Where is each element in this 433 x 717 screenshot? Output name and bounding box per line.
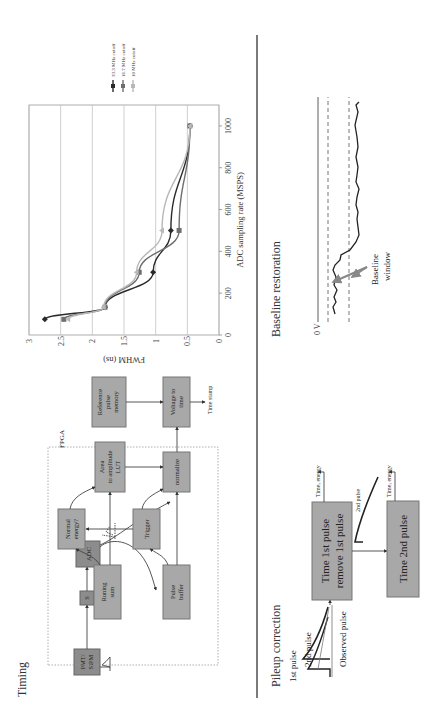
box1-label-2: remove 1st pulse: [333, 514, 345, 589]
baseline-window-label-1: Baseline: [370, 254, 380, 285]
fwhm-chart: FWHM (ns) ADC sampling rate (MSPS) 00.51…: [25, 43, 245, 365]
x-tick-label: 600: [224, 204, 233, 216]
normal-energy-label-1: Normal: [64, 519, 71, 539]
time-first-pulse-box: [312, 502, 352, 600]
data-point: [150, 269, 156, 275]
figure-page: Timing PMT/ SiPM S ADC FPGA Runing sum P…: [0, 0, 433, 717]
zero-volt-label: 0 V: [313, 323, 322, 335]
voltage-to-time-label-1: Voltage to: [169, 389, 176, 415]
chart-ticks: 00.511.522.5302004006008001000: [25, 118, 233, 346]
legend-entry: 10 MHz cutoff: [131, 47, 136, 77]
detector-pulse-icon: [100, 657, 110, 671]
sampled-pulse-icon: [102, 523, 115, 539]
chart-grid: [29, 105, 219, 335]
area-lut-label-2: to amplitude: [106, 451, 113, 484]
x-tick-label: 0: [224, 333, 233, 337]
y-tick-label: 0.5: [183, 336, 192, 346]
time-stamp-label: Time stamp: [207, 386, 213, 414]
box2-label: Time 2nd pulse: [397, 515, 409, 583]
output1-label: Time, energy: [315, 465, 321, 497]
pulse-buffer-label-2: buffer: [177, 583, 184, 600]
x-axis-label: ADC sampling rate (MSPS): [235, 172, 245, 268]
x-tick-label: 1000: [224, 118, 233, 134]
chart-series: [42, 123, 193, 322]
running-sum-label-1: Runing: [100, 582, 107, 602]
y-tick-label: 1.5: [120, 336, 129, 346]
area-lut-label-1: Area: [98, 461, 105, 474]
fpga-region: [48, 447, 218, 665]
legend-marker: [131, 84, 135, 88]
legend-entry: 16.7 MHz cutoff: [121, 43, 126, 77]
pileup-section: Pileup correction 1st pulse 2nd pulse Ob…: [269, 465, 419, 687]
detector-label-2: SiPM: [87, 654, 94, 669]
data-point: [177, 228, 182, 233]
y-tick-label: 0: [215, 339, 224, 343]
arrow-normal-energy-to-lut: [70, 487, 95, 509]
y-tick-label: 2: [88, 339, 97, 343]
pulse-buffer-label-1: Pulse: [169, 585, 176, 599]
detector-label-1: PMT/: [79, 654, 86, 669]
normal-energy-label-2: energy?: [72, 519, 79, 540]
baseline-title: Baseline restoration: [269, 241, 283, 337]
baseline-window-label-2: window: [382, 252, 392, 282]
y-tick-label: 3: [25, 339, 34, 343]
area-lut-label-3: LUT: [114, 461, 121, 474]
arrow-pulse-buffer-to-trigger: [150, 549, 168, 565]
reference-memory-label-1: Reference: [96, 389, 103, 415]
y-tick-label: 2.5: [57, 336, 66, 346]
arrow-trigger-to-normalize: [142, 489, 163, 509]
x-tick-label: 400: [224, 245, 233, 257]
trigger-label: Trigger: [143, 519, 150, 539]
legend-marker: [121, 84, 125, 88]
observed-pulse-label: Observed pulse: [338, 611, 348, 667]
fpga-label: FPGA: [58, 430, 66, 448]
normalize-label: normalize: [173, 459, 180, 485]
pileup-title: Pileup correction: [269, 605, 283, 687]
timing-title: Timing: [15, 662, 29, 697]
timing-section: Timing PMT/ SiPM S ADC FPGA Runing sum P…: [15, 377, 218, 697]
baseline-section: Baseline restoration 0 V Baseline window: [269, 97, 392, 337]
legend-marker: [111, 84, 115, 88]
x-tick-label: 800: [224, 162, 233, 174]
second-pulse-small-label: 2nd pulse: [355, 488, 361, 512]
figure-canvas: Timing PMT/ SiPM S ADC FPGA Runing sum P…: [0, 0, 433, 717]
data-point: [168, 227, 174, 233]
running-sum-label-2: sum: [108, 587, 115, 598]
series-line-0: [45, 126, 190, 319]
box1-label-1: Time 1st pulse: [319, 519, 331, 584]
x-tick-label: 200: [224, 287, 233, 299]
y-axis-label: FWHM (ns): [103, 355, 145, 365]
reference-memory-label-3: memory: [112, 390, 119, 412]
first-pulse-label: 1st pulse: [288, 650, 298, 682]
filter-label: S: [83, 596, 90, 600]
reference-memory-label-2: pulse: [104, 395, 111, 409]
chart-legend: 33.3 MHz cutoff16.7 MHz cutoff10 MHz cut…: [111, 43, 136, 92]
legend-entry: 33.3 MHz cutoff: [111, 43, 116, 77]
signal-waveform: [333, 102, 359, 314]
y-tick-label: 1: [152, 339, 161, 343]
output2-label: Time, energy: [386, 465, 392, 497]
voltage-to-time-label-2: time: [177, 396, 184, 408]
